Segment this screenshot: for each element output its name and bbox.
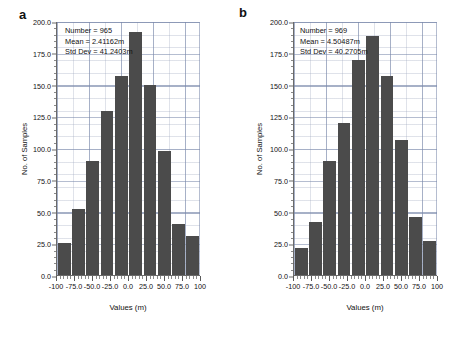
bar <box>309 222 322 275</box>
x-tick-label: -100 <box>49 282 63 291</box>
x-minor-tick <box>196 276 197 279</box>
x-minor-tick <box>88 276 89 279</box>
x-tick-label: 75.0 <box>175 282 189 291</box>
x-tick-label: 0.0 <box>360 282 370 291</box>
x-tick-label: 50.0 <box>394 282 408 291</box>
x-minor-tick <box>132 276 133 279</box>
panel-a-letter: a <box>19 7 26 22</box>
bar <box>86 161 99 275</box>
panel-a-stats: Number = 965 Mean = 2.41162m Std Dev = 4… <box>65 26 133 58</box>
x-minor-tick <box>114 276 115 279</box>
x-minor-tick <box>405 276 406 279</box>
y-tick-label: 175.0 <box>33 49 51 58</box>
x-tick-label: -25.0 <box>339 282 355 291</box>
x-major-tick <box>164 276 165 281</box>
x-minor-tick <box>63 276 64 279</box>
panel-a-x-axis: -100-75.0-50.0-25.00.025.050.075.0100 <box>56 276 200 288</box>
y-tick-label: 75.0 <box>37 176 51 185</box>
y-tick-label: 100.0 <box>270 145 288 154</box>
x-minor-tick <box>81 276 82 279</box>
panel-a-plot-area: Number = 965 Mean = 2.41162m Std Dev = 4… <box>56 22 200 276</box>
x-minor-tick <box>336 276 337 279</box>
x-tick-label: -25.0 <box>102 282 118 291</box>
bar <box>295 248 308 275</box>
x-minor-tick <box>343 276 344 279</box>
y-tick-label: 50.0 <box>37 208 51 217</box>
x-major-tick <box>200 276 201 281</box>
x-tick-label: -50.0 <box>321 282 337 291</box>
x-minor-tick <box>322 276 323 279</box>
x-tick-label: -75.0 <box>66 282 82 291</box>
x-tick-label: -50.0 <box>84 282 100 291</box>
x-minor-tick <box>304 276 305 279</box>
panel-b-stats: Number = 969 Mean = 4.50487m Std Dev = 4… <box>300 26 368 58</box>
x-minor-tick <box>387 276 388 279</box>
x-tick-label: 100 <box>431 282 443 291</box>
x-minor-tick <box>412 276 413 279</box>
x-minor-tick <box>189 276 190 279</box>
bar <box>395 140 408 275</box>
x-minor-tick <box>397 276 398 279</box>
x-minor-tick <box>150 276 151 279</box>
y-tick-label: 150.0 <box>270 81 288 90</box>
x-minor-tick <box>117 276 118 279</box>
y-axis-title: No. of Samples <box>20 89 29 209</box>
x-minor-tick <box>379 276 380 279</box>
x-minor-tick <box>358 276 359 279</box>
x-minor-tick <box>297 276 298 279</box>
x-minor-tick <box>78 276 79 279</box>
x-major-tick <box>110 276 111 281</box>
x-minor-tick <box>60 276 61 279</box>
x-tick-label: -100 <box>286 282 300 291</box>
x-minor-tick <box>369 276 370 279</box>
x-minor-tick <box>178 276 179 279</box>
bar <box>144 85 157 275</box>
panel-b-x-axis: -100-75.0-50.0-25.00.025.050.075.0100 <box>293 276 437 288</box>
panel-b-bars <box>294 22 437 275</box>
x-major-tick <box>347 276 348 281</box>
x-major-tick <box>74 276 75 281</box>
x-minor-tick <box>394 276 395 279</box>
x-major-tick <box>329 276 330 281</box>
bar <box>352 60 365 275</box>
x-minor-tick <box>361 276 362 279</box>
x-minor-tick <box>171 276 172 279</box>
x-minor-tick <box>351 276 352 279</box>
x-minor-tick <box>67 276 68 279</box>
y-tick-label: 0.0 <box>41 272 51 281</box>
x-major-tick <box>92 276 93 281</box>
x-minor-tick <box>160 276 161 279</box>
histogram-figure: a 0.025.050.075.0100.0125.0150.0175.0200… <box>0 0 462 340</box>
panel-a-stat-stddev: Std Dev = 41.2403m <box>65 47 133 58</box>
x-major-tick <box>56 276 57 281</box>
x-major-tick <box>383 276 384 281</box>
x-minor-tick <box>372 276 373 279</box>
bar <box>101 111 114 275</box>
x-major-tick <box>128 276 129 281</box>
bar <box>115 76 128 275</box>
x-minor-tick <box>175 276 176 279</box>
y-axis-title: No. of Samples <box>255 89 264 209</box>
x-minor-tick <box>426 276 427 279</box>
panel-a-y-axis: 0.025.050.075.0100.0125.0150.0175.0200.0… <box>0 22 56 276</box>
x-tick-label: 25.0 <box>139 282 153 291</box>
panel-a-stat-number: Number = 965 <box>65 26 133 37</box>
x-minor-tick <box>390 276 391 279</box>
x-minor-tick <box>300 276 301 279</box>
x-minor-tick <box>124 276 125 279</box>
panel-a-bars <box>57 22 200 275</box>
x-tick-label: -75.0 <box>303 282 319 291</box>
x-major-tick <box>311 276 312 281</box>
x-minor-tick <box>142 276 143 279</box>
x-major-tick <box>365 276 366 281</box>
x-minor-tick <box>96 276 97 279</box>
x-tick-label: 75.0 <box>412 282 426 291</box>
x-minor-tick <box>153 276 154 279</box>
y-tick-label: 75.0 <box>274 176 288 185</box>
y-tick-label: 150.0 <box>33 81 51 90</box>
x-minor-tick <box>135 276 136 279</box>
y-tick-label: 125.0 <box>270 113 288 122</box>
panel-b-y-axis: 0.025.050.075.0100.0125.0150.0175.0200.0… <box>231 22 293 276</box>
panel-a-x-axis-title: Values (m) <box>56 303 200 312</box>
panel-a: a 0.025.050.075.0100.0125.0150.0175.0200… <box>0 0 231 340</box>
